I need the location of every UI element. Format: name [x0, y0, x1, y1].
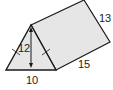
- label-base: 10: [26, 74, 38, 86]
- label-slant: 13: [99, 12, 111, 24]
- triangular-prism-diagram: 12 10 15 13: [0, 0, 113, 90]
- label-length: 15: [78, 58, 90, 70]
- label-height: 12: [18, 42, 30, 54]
